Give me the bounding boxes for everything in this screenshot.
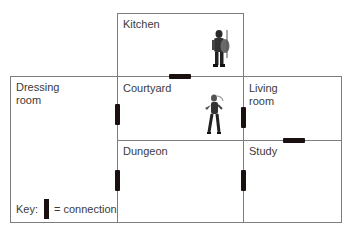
connection-sample-icon	[44, 199, 49, 219]
connection-dressing-dungeon	[115, 170, 120, 191]
outer-left-wall	[10, 76, 11, 222]
kitchen-top-wall	[117, 13, 244, 14]
room-dungeon-label: Dungeon	[123, 145, 168, 158]
connection-courtyard-living	[241, 107, 246, 128]
room-kitchen-label: Kitchen	[123, 18, 160, 31]
key-suffix: = connection	[54, 203, 117, 215]
connection-dungeon-study	[241, 170, 246, 191]
armored-knight-icon	[208, 28, 232, 68]
room-dressing-label: Dressing room	[16, 81, 59, 107]
middle-wall	[117, 140, 342, 141]
outer-right-wall	[341, 76, 342, 222]
room-courtyard-label: Courtyard	[123, 82, 171, 95]
legend-key: Key: = connection	[16, 199, 117, 219]
outer-bottom-wall	[10, 222, 342, 223]
connection-living-study	[283, 138, 305, 143]
room-living-label: Living room	[249, 82, 278, 108]
warrior-woman-icon	[203, 92, 225, 136]
connection-dressing-courtyard	[115, 104, 120, 125]
key-prefix: Key:	[16, 203, 38, 215]
connection-kitchen-courtyard	[169, 74, 191, 79]
room-study-label: Study	[249, 145, 277, 158]
